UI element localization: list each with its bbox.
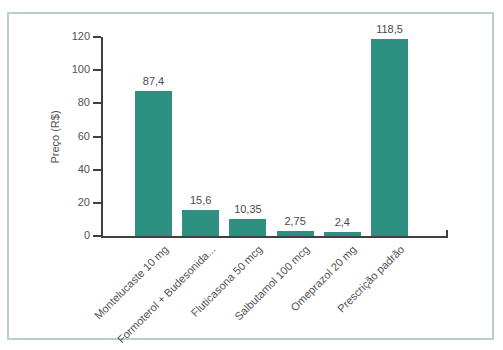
y-tick-mark [93,169,101,171]
x-axis-category-label: Montelucaste 10 mg [20,243,170,350]
y-tick-label: 120 [50,30,90,43]
y-tick-mark [93,235,101,237]
y-tick-label: 0 [50,229,90,242]
y-tick-label: 60 [50,130,90,143]
x-axis-end-tick [446,230,448,236]
y-tick-mark [93,36,101,38]
bar-value-label: 2,4 [312,216,372,229]
bar-value-label: 10,35 [218,203,278,216]
y-tick-mark [93,136,101,138]
bar [277,231,314,236]
bar [229,219,266,236]
bar-value-label: 87,4 [124,75,184,88]
x-axis-category-label: Prescrição padrão [256,243,406,350]
bar [324,232,361,236]
bar-chart: Preço (R$) 020406080100120 87,415,610,35… [0,0,503,350]
x-axis-line [101,236,448,238]
bar [371,39,408,236]
y-tick-mark [93,69,101,71]
bar [182,210,219,236]
x-axis-category-label: Formoterol + Budesonida... [67,243,217,350]
y-tick-label: 80 [50,96,90,109]
y-tick-label: 40 [50,163,90,176]
bar [135,91,172,236]
y-axis-line [101,37,103,238]
y-tick-mark [93,202,101,204]
bar-value-label: 118,5 [360,23,420,36]
y-tick-label: 100 [50,63,90,76]
y-tick-label: 20 [50,196,90,209]
y-tick-mark [93,102,101,104]
x-axis-category-label: Fluticasona 50 mcg [114,243,264,350]
x-axis-category-label: Salbutamol 100 mcg [162,243,312,350]
x-axis-category-label: Omeprazol 20 mg [209,243,359,350]
